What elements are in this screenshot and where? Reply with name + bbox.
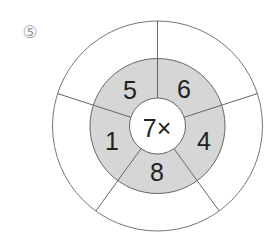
inner-cell-top-right: 6 bbox=[177, 75, 191, 103]
inner-cell-bottom: 8 bbox=[150, 158, 164, 186]
inner-cell-left: 1 bbox=[105, 127, 119, 155]
center-label: 7× bbox=[143, 114, 172, 142]
multiplication-wheel: 7× 5 6 4 8 1 bbox=[0, 0, 278, 243]
inner-cell-right: 4 bbox=[197, 127, 211, 155]
inner-cell-top-left: 5 bbox=[123, 76, 137, 104]
